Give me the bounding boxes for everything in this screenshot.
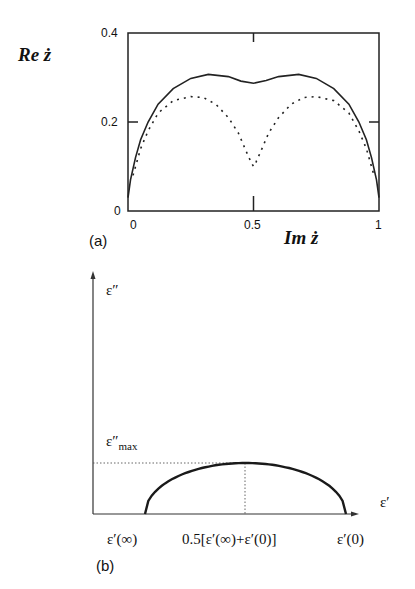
- emax-label: ε″max: [106, 433, 138, 452]
- solid-curve: [128, 74, 379, 197]
- figure-canvas: [0, 0, 415, 589]
- x-axis-label-var: ż: [311, 227, 318, 248]
- y-axis-label-b: ε″: [106, 282, 119, 299]
- x-tick-label-mid: 0.5[ε′(∞)+ε′(0)]: [182, 531, 277, 548]
- y-axis-arrow-icon: [91, 271, 96, 279]
- x-axis-label-b: ε′: [380, 494, 390, 511]
- emax-label-sub: max: [119, 440, 138, 452]
- dotted-curve: [133, 97, 374, 176]
- y-axis-label-var: ż: [44, 44, 51, 65]
- y-axis-label-a: Re ż: [18, 44, 51, 66]
- y-axis-label-text: Re: [18, 44, 39, 65]
- x-tick-label-0.5: 0.5: [244, 218, 261, 232]
- emax-label-main: ε″: [106, 433, 119, 449]
- x-tick-label-1: 1: [375, 218, 382, 232]
- caption-b: (b): [96, 557, 114, 574]
- x-tick-label-einf: ε′(∞): [107, 531, 137, 548]
- plot-a-frame: [128, 33, 379, 211]
- caption-a: (a): [89, 232, 107, 249]
- x-tick-label-0: 0: [130, 218, 137, 232]
- y-tick-label-0: 0: [114, 204, 121, 218]
- x-axis-label-a: Im ż: [284, 227, 318, 249]
- y-tick-label-0.4: 0.4: [101, 26, 118, 40]
- x-tick-label-e0: ε′(0): [337, 531, 364, 548]
- x-axis-arrow-icon: [351, 512, 359, 517]
- semicircle-arc: [145, 463, 346, 514]
- y-tick-label-0.2: 0.2: [101, 115, 118, 129]
- x-axis-label-text: Im: [284, 227, 306, 248]
